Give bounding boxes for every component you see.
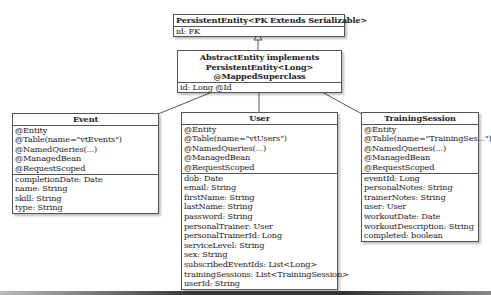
attribute: completed: boolean [364,231,476,241]
attributes-section: dob: Date email: String firstName: Strin… [182,173,337,289]
class-name: TrainingSession [362,113,478,125]
class-name: PersistentEntity<PK Extends Serializable… [174,15,344,27]
class-name: AbstractEntity implements PersistentEnti… [178,51,341,83]
annotation: @RequestScoped [15,164,156,174]
attributes-section: eventId: Long personalNotes: String trai… [362,173,478,241]
annotations-section: @Entity @Table(name="vtUsers") @NamedQue… [182,125,337,173]
attribute: userId: String [184,279,335,289]
annotation: @RequestScoped [364,163,476,173]
attributes-section: id: Long @Id [178,83,341,93]
attributes-section: id: PK [174,27,344,37]
attribute: id: Long @Id [180,83,339,93]
annotations-section: @Entity @Table(name="vtEvents") @NamedQu… [13,126,158,174]
class-persistent-entity[interactable]: PersistentEntity<PK Extends Serializable… [173,14,345,37]
class-event[interactable]: Event @Entity @Table(name="vtEvents") @N… [12,113,159,214]
attribute: id: PK [176,27,342,37]
class-training-session[interactable]: TrainingSession @Entity @Table(name="Tra… [361,112,479,242]
attribute: type: String [15,203,156,213]
class-name: User [182,113,337,125]
page-edge-divider [0,291,491,295]
attributes-section: completionDate: Date name: String skill:… [13,174,158,213]
annotation: @RequestScoped [184,163,335,173]
class-abstract-entity[interactable]: AbstractEntity implements PersistentEnti… [177,50,342,93]
annotations-section: @Entity @Table(name="TrainingSes...") @N… [362,125,478,173]
stereotype-annotation: @MappedSuperclass [180,72,339,82]
class-name: Event [13,114,158,126]
class-user[interactable]: User @Entity @Table(name="vtUsers") @Nam… [181,112,338,290]
